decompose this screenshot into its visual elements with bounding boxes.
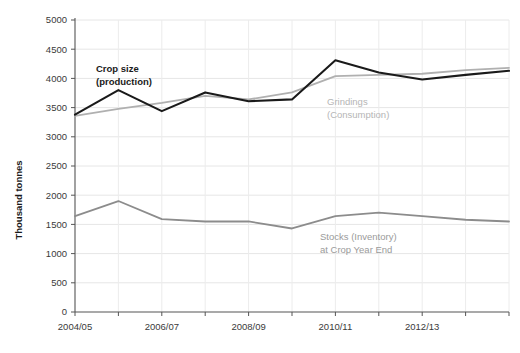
x-tick-label: 2010/11: [319, 321, 353, 332]
y-tick-label: 4000: [46, 73, 67, 84]
series-annotations: Crop size(production)Grindings(Consumpti…: [96, 63, 397, 255]
x-tick-label: 2012/13: [405, 321, 439, 332]
gridlines: [75, 20, 509, 312]
y-tick-label: 4500: [46, 44, 67, 55]
y-tick-label: 3000: [46, 131, 67, 142]
stocks-label-line1: Stocks (Inventory): [320, 231, 397, 242]
y-tick-label: 0: [62, 306, 67, 317]
x-tick-label: 2006/07: [145, 321, 179, 332]
x-tick-label: 2004/05: [58, 321, 92, 332]
grindings-label-line2: (Consumption): [327, 109, 389, 120]
y-tick-label: 1500: [46, 219, 67, 230]
y-axis-title: Thousand tonnes: [13, 160, 24, 239]
line-chart: 0500100015002000250030003500400045005000…: [0, 0, 520, 353]
y-axis-ticks: 0500100015002000250030003500400045005000: [46, 14, 75, 317]
x-tick-label: 2008/09: [231, 321, 265, 332]
chart-container: 0500100015002000250030003500400045005000…: [0, 0, 520, 353]
crop-size-label-line2: (production): [96, 76, 152, 87]
y-tick-label: 3500: [46, 102, 67, 113]
y-tick-label: 1000: [46, 248, 67, 259]
y-tick-label: 2500: [46, 160, 67, 171]
stocks-label-line2: at Crop Year End: [320, 244, 392, 255]
x-axis-ticks: 2004/052006/072008/092010/112012/13: [58, 312, 509, 332]
grindings-label-line1: Grindings: [327, 96, 368, 107]
y-tick-label: 500: [51, 277, 67, 288]
y-tick-label: 2000: [46, 190, 67, 201]
y-tick-label: 5000: [46, 14, 67, 25]
crop-size-label-line1: Crop size: [96, 63, 139, 74]
